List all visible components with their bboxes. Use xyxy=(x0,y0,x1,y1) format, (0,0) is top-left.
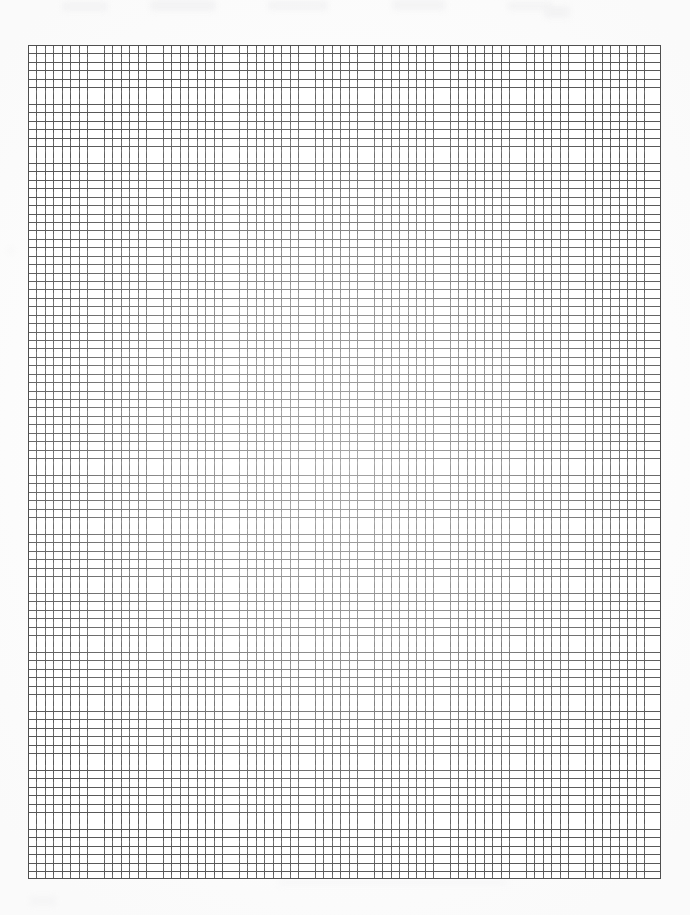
grid-ruling-lines xyxy=(28,45,661,879)
scan-smudge xyxy=(544,6,570,18)
scan-smudge xyxy=(8,248,13,253)
scan-smudge xyxy=(150,0,216,11)
scanned-page xyxy=(0,0,690,915)
scan-smudge xyxy=(30,896,56,906)
scan-smudge xyxy=(268,1,328,10)
graph-paper-grid xyxy=(28,45,661,879)
scan-smudge xyxy=(392,0,446,10)
scan-smudge xyxy=(508,2,552,10)
scan-smudge xyxy=(62,2,108,11)
scan-smudge xyxy=(278,880,508,885)
